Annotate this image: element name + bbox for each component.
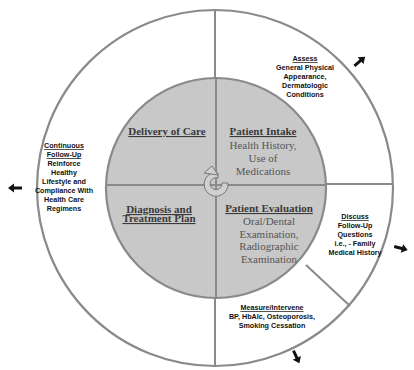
assess-line: Appearance, [283,72,326,81]
outer-section-measure-intervene: Measure/Intervene BP, HbAlc, Osteoporosi… [229,303,315,330]
patient-evaluation-title: Patient Evaluation [225,202,313,214]
quadrant-diagnosis-treatment-plan: Diagnosis and Treatment Plan [122,203,195,224]
continuous-line: Healthy [51,168,77,177]
patient-intake-line: Medications [236,165,290,177]
continuous-line: Reinforce [47,159,80,168]
measure-title: Measure/Intervene [240,303,303,312]
delivery-of-care-title: Delivery of Care [128,125,205,137]
arrow-icon-right [393,242,409,254]
patient-intake-title: Patient Intake [230,125,297,137]
continuous-line: Compliance With [35,186,93,195]
assess-line: Conditions [286,90,324,99]
patient-evaluation-line: Oral/Dental [243,215,295,227]
patient-evaluation-line: Examination [241,253,298,265]
discuss-line: i.e., - Family [334,239,375,248]
arrow-icon-left [8,184,22,193]
discuss-line: Follow-Up [338,221,373,230]
patient-care-cycle-diagram: Delivery of Care Patient Intake Health H… [0,0,414,370]
diagnosis-title-line: Treatment Plan [122,212,195,224]
continuous-line: Health Care [44,195,84,204]
continuous-line: Regimens [47,204,81,213]
arrow-icon-upper-right [352,53,369,69]
quadrant-delivery-of-care: Delivery of Care [128,125,205,137]
assess-line: General Physical [276,63,334,72]
discuss-line: Questions [337,230,372,239]
continuous-title-line: Follow-Up [47,150,82,159]
patient-intake-line: Health History, [229,139,296,151]
discuss-line: Medical History [328,248,381,257]
arrow-icon-lower-right [289,349,303,365]
measure-line: BP, HbAlc, Osteoporosis, [229,312,315,321]
patient-evaluation-line: Radiographic [239,240,298,252]
continuous-title-line: Continuous [44,141,84,150]
assess-title: Assess [292,54,317,63]
patient-intake-line: Use of [248,152,277,164]
measure-line: Smoking Cessation [239,321,306,330]
assess-line: Dermatologic [282,81,328,90]
continuous-line: Lifestyle and [42,177,86,186]
discuss-title: Discuss [341,212,369,221]
patient-evaluation-line: Examination, [240,228,299,240]
